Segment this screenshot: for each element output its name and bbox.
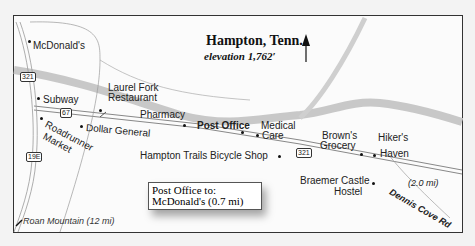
place-haven: Haven — [380, 148, 409, 159]
browns-grocery-dot — [360, 153, 363, 156]
map-elevation: elevation 1,762′ — [204, 50, 276, 62]
medical-care-dot — [256, 134, 259, 137]
distance-callout: Post Office to: McDonald's (0.7 mi) — [148, 182, 262, 210]
road-19e-edge — [18, 22, 37, 232]
dollar-general-dot — [80, 125, 83, 128]
callout-line2: McDonald's (0.7 mi) — [152, 196, 258, 207]
place-subway[interactable]: Subway — [43, 94, 79, 105]
place-post-office[interactable]: Post Office — [197, 120, 250, 131]
roadrunner-dot — [40, 117, 43, 120]
laurel-fork-dot — [99, 109, 102, 112]
shield-321: 321 — [20, 72, 36, 82]
place-hikers[interactable]: Hiker's — [378, 132, 408, 143]
bicycle-shop-dot — [278, 155, 281, 158]
subway-dot — [37, 97, 40, 100]
place-hostel: Hostel — [334, 186, 362, 197]
pharmacy-dot — [183, 124, 186, 127]
place-grocery: Grocery — [320, 140, 356, 151]
place-pharmacy[interactable]: Pharmacy — [140, 109, 185, 120]
place-laurel-fork-2: Restaurant — [108, 92, 157, 103]
braemer-dot — [372, 182, 375, 185]
north-arrow-head — [302, 34, 310, 46]
road-roan-mountain-label[interactable]: Roan Mountain (12 mi) — [23, 216, 115, 227]
place-bicycle-shop[interactable]: Hampton Trails Bicycle Shop — [140, 150, 268, 161]
mcdonalds-dot — [28, 40, 31, 43]
shield-19e: 19E — [26, 152, 42, 162]
post-office-dot — [241, 131, 244, 134]
hikers-haven-dot — [373, 154, 376, 157]
place-braemer-castle[interactable]: Braemer Castle — [300, 175, 369, 186]
laurel-fork-pointer — [100, 112, 106, 117]
shield-67: 67 — [60, 108, 72, 118]
place-care: Care — [262, 130, 284, 141]
river — [14, 70, 462, 122]
place-mcdonalds[interactable]: McDonald's — [33, 40, 85, 51]
road-19e — [14, 22, 33, 232]
shield-321-east: 321 — [296, 148, 312, 158]
dennis-cove-distance: (2.0 mi) — [408, 178, 439, 189]
map-title: Hampton, Tenn. — [206, 33, 303, 49]
